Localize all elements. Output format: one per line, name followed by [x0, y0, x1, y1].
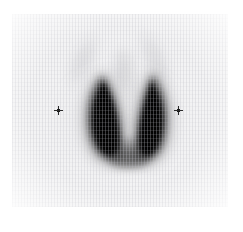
scan-field: [12, 14, 228, 207]
scan-edge-vignette: [12, 14, 228, 207]
thyroid-left-lobe: [84, 72, 124, 164]
left-reference-marker: [54, 106, 63, 115]
thyroid-right-lobe: [134, 70, 171, 164]
thyroid-pyramidal-region: [123, 50, 133, 97]
right-reference-marker-core: [177, 109, 180, 112]
thyroid-scan-viewer: [0, 0, 243, 232]
background-activity-left: [59, 27, 108, 94]
right-reference-marker: [174, 106, 183, 115]
thyroid-gland: [12, 14, 228, 207]
background-activity-neck: [46, 60, 196, 180]
scan-raster-texture: [12, 14, 228, 207]
background-activity-right: [131, 25, 180, 92]
background-activity-midline: [110, 44, 128, 90]
left-reference-marker-core: [57, 109, 60, 112]
thyroid-isthmus: [107, 139, 151, 167]
